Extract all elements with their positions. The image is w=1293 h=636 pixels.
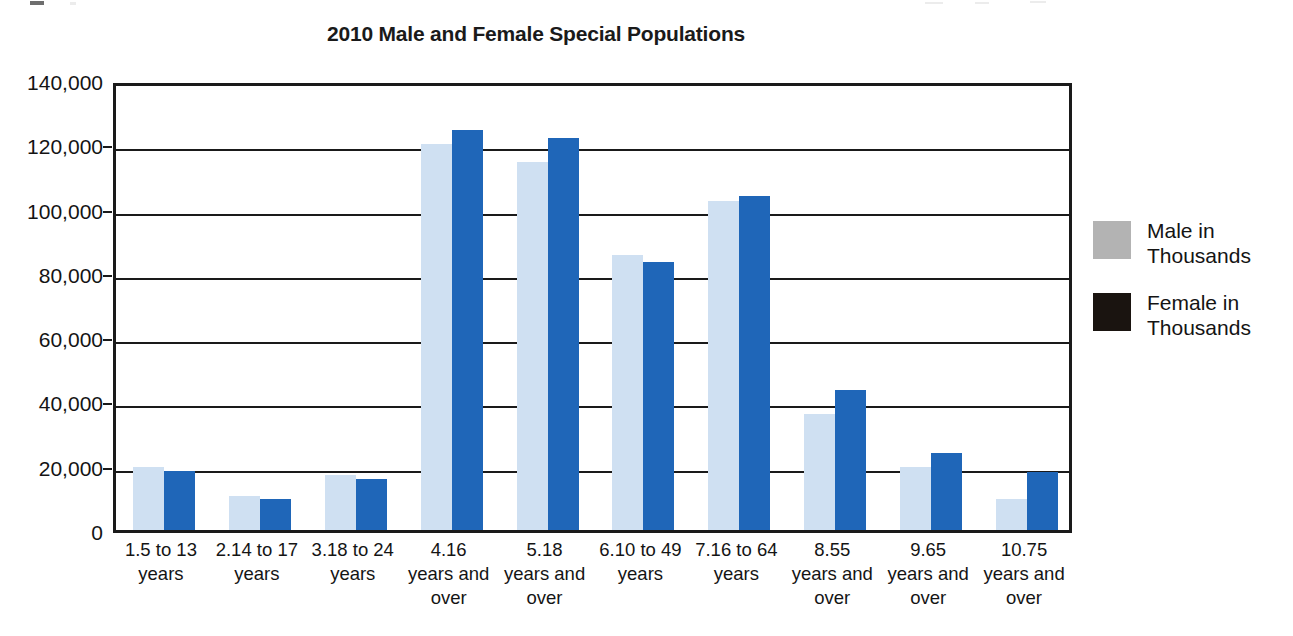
bar-group bbox=[612, 86, 674, 530]
bar-female[interactable] bbox=[739, 196, 770, 530]
x-tick-label-line: years and bbox=[497, 562, 593, 586]
x-tick-label: 10.75years andover bbox=[976, 538, 1072, 610]
legend-swatch-icon bbox=[1093, 221, 1131, 259]
y-tick-label: 140,000 bbox=[27, 71, 103, 95]
x-tick-label-line: years and bbox=[880, 562, 976, 586]
x-tick-label-line: 4.16 bbox=[401, 538, 497, 562]
legend-swatch-icon bbox=[1093, 293, 1131, 331]
x-tick-label-line: 6.10 to 49 bbox=[592, 538, 688, 562]
legend-label: Female inThousands bbox=[1147, 290, 1251, 340]
y-tick-mark bbox=[103, 339, 112, 341]
x-tick-label-line: 8.55 bbox=[784, 538, 880, 562]
bar-group bbox=[804, 86, 866, 530]
legend-label-line: Male in bbox=[1147, 218, 1251, 243]
x-tick-label-line: over bbox=[784, 586, 880, 610]
x-tick-label-line: 7.16 to 64 bbox=[688, 538, 784, 562]
legend-label: Male inThousands bbox=[1147, 218, 1251, 268]
y-tick-mark bbox=[103, 275, 112, 277]
x-tick-label-line: 5.18 bbox=[497, 538, 593, 562]
x-tick-label-line: years bbox=[113, 562, 209, 586]
bar-female[interactable] bbox=[643, 262, 674, 530]
x-tick-label: 2.14 to 17years bbox=[209, 538, 305, 586]
bar-female[interactable] bbox=[1027, 472, 1058, 530]
x-tick-label-line: 9.65 bbox=[880, 538, 976, 562]
y-tick-label: 60,000 bbox=[39, 328, 103, 352]
x-tick-label-line: years and bbox=[401, 562, 497, 586]
y-tick-label: 120,000 bbox=[27, 135, 103, 159]
x-tick-label: 5.18years andover bbox=[497, 538, 593, 610]
bar-male[interactable] bbox=[900, 467, 931, 530]
bar-group bbox=[517, 86, 579, 530]
bar-female[interactable] bbox=[260, 499, 291, 531]
bar-female[interactable] bbox=[356, 479, 387, 530]
legend-item[interactable]: Female inThousands bbox=[1093, 290, 1293, 340]
x-tick-label-line: years bbox=[592, 562, 688, 586]
x-tick-label-line: years and bbox=[976, 562, 1072, 586]
bar-group bbox=[229, 86, 291, 530]
bar-male[interactable] bbox=[229, 496, 260, 530]
x-axis: 1.5 to 13years2.14 to 17years3.18 to 24y… bbox=[113, 538, 1072, 630]
bar-female[interactable] bbox=[548, 138, 579, 530]
legend-label-line: Female in bbox=[1147, 290, 1251, 315]
x-tick-label: 4.16years andover bbox=[401, 538, 497, 610]
bar-female[interactable] bbox=[931, 453, 962, 530]
chart-figure: 2010 Male and Female Special Populations… bbox=[0, 0, 1293, 636]
bar-female[interactable] bbox=[452, 130, 483, 530]
bar-group bbox=[325, 86, 387, 530]
bar-group bbox=[421, 86, 483, 530]
y-tick-mark bbox=[103, 468, 112, 470]
x-tick-label-line: 1.5 to 13 bbox=[113, 538, 209, 562]
y-tick-label: 100,000 bbox=[27, 200, 103, 224]
y-tick-mark bbox=[103, 403, 112, 405]
scan-artifact bbox=[925, 2, 943, 4]
x-tick-label-line: years bbox=[305, 562, 401, 586]
bar-male[interactable] bbox=[996, 499, 1027, 530]
y-tick-mark bbox=[103, 211, 112, 213]
y-tick-label: 40,000 bbox=[39, 392, 103, 416]
bar-female[interactable] bbox=[835, 390, 866, 530]
bar-male[interactable] bbox=[804, 414, 835, 530]
bar-group bbox=[133, 86, 195, 530]
chart-title: 2010 Male and Female Special Populations bbox=[0, 22, 1072, 46]
x-tick-label-line: over bbox=[880, 586, 976, 610]
bar-group bbox=[708, 86, 770, 530]
x-tick-label-line: years bbox=[209, 562, 305, 586]
x-tick-label-line: 3.18 to 24 bbox=[305, 538, 401, 562]
legend-item[interactable]: Male inThousands bbox=[1093, 218, 1293, 268]
scan-artifact bbox=[975, 2, 989, 4]
bar-female[interactable] bbox=[164, 471, 195, 530]
bar-male[interactable] bbox=[708, 201, 739, 530]
bar-male[interactable] bbox=[133, 467, 164, 530]
bar-male[interactable] bbox=[612, 255, 643, 530]
x-tick-label-line: over bbox=[401, 586, 497, 610]
x-tick-label-line: 2.14 to 17 bbox=[209, 538, 305, 562]
bar-male[interactable] bbox=[325, 475, 356, 530]
y-axis: 020,00040,00060,00080,000100,000120,0001… bbox=[0, 83, 103, 533]
bar-male[interactable] bbox=[517, 162, 548, 530]
x-tick-label: 3.18 to 24years bbox=[305, 538, 401, 586]
bar-group bbox=[996, 86, 1058, 530]
bar-male[interactable] bbox=[421, 144, 452, 530]
x-tick-label: 8.55years andover bbox=[784, 538, 880, 610]
bar-group bbox=[900, 86, 962, 530]
y-tick-label: 0 bbox=[91, 521, 103, 545]
scan-artifact bbox=[30, 1, 44, 5]
x-tick-label-line: 10.75 bbox=[976, 538, 1072, 562]
y-tick-label: 20,000 bbox=[39, 457, 103, 481]
scan-artifact bbox=[1030, 1, 1046, 3]
plot-area bbox=[113, 83, 1072, 533]
x-tick-label-line: over bbox=[497, 586, 593, 610]
x-tick-label: 6.10 to 49years bbox=[592, 538, 688, 586]
y-tick-mark bbox=[103, 146, 112, 148]
chart-legend: Male inThousandsFemale inThousands bbox=[1093, 218, 1293, 362]
legend-label-line: Thousands bbox=[1147, 315, 1251, 340]
x-tick-label-line: over bbox=[976, 586, 1072, 610]
x-tick-label: 7.16 to 64years bbox=[688, 538, 784, 586]
scan-artifact bbox=[70, 2, 76, 5]
x-tick-label: 1.5 to 13years bbox=[113, 538, 209, 586]
x-tick-label-line: years and bbox=[784, 562, 880, 586]
x-tick-label: 9.65years andover bbox=[880, 538, 976, 610]
y-tick-label: 80,000 bbox=[39, 264, 103, 288]
x-tick-label-line: years bbox=[688, 562, 784, 586]
legend-label-line: Thousands bbox=[1147, 243, 1251, 268]
